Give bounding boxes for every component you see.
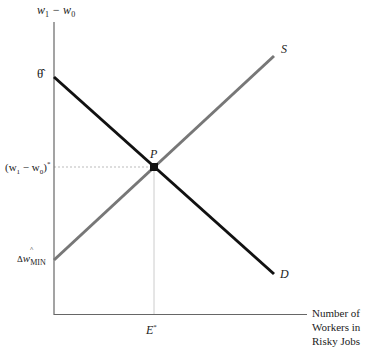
theta-hat-tick-label: θ̂ [37,68,43,80]
equilibrium-point-label: P [150,148,157,160]
x-axis-label: Number of Workers in Risky Jobs [312,306,360,348]
demand-curve-label: D [280,268,289,280]
equilibrium-quantity-tick-label: E* [146,321,157,336]
supply-curve-label: S [281,43,287,55]
demand-curve [54,77,274,274]
min-hat-accent: ^ [30,243,33,255]
supply-curve [54,56,274,260]
equilibrium-point [150,163,158,171]
y-axis-label: w1 − w0 [37,4,75,21]
equilibrium-wage-tick-label: (w1 − w0)* [5,158,50,178]
